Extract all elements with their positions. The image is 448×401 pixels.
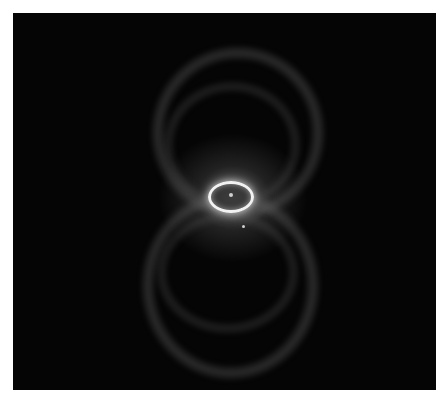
star	[242, 225, 245, 228]
nebula-image	[13, 13, 436, 390]
central-ring	[208, 181, 254, 213]
lower-lobe-inner	[158, 213, 297, 332]
central-star	[229, 193, 233, 197]
